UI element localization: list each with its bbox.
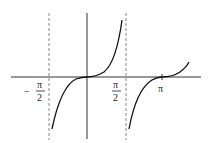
label-neg-half-pi: − π 2 (24, 79, 45, 103)
label-half-pi: π 2 (112, 79, 121, 103)
svg-text:π: π (113, 79, 118, 90)
svg-text:−: − (24, 86, 30, 97)
svg-text:2: 2 (113, 92, 118, 103)
label-pi: π (158, 83, 163, 94)
svg-text:2: 2 (37, 92, 42, 103)
curve-branch-2 (129, 62, 189, 129)
function-graph: − π 2 π 2 π (0, 0, 212, 143)
svg-text:π: π (37, 79, 42, 90)
